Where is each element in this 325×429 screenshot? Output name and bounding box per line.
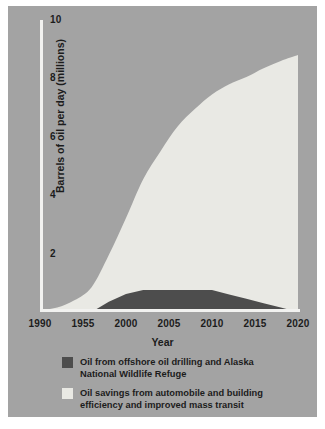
- x-tick-label: 1955: [71, 318, 94, 329]
- x-tick-label: 2015: [243, 318, 266, 329]
- y-axis-title: Barrels of oil per day (millions): [54, 16, 66, 216]
- x-tick-label: 1990: [28, 318, 51, 329]
- x-tick-label: 2020: [286, 318, 309, 329]
- chart-legend: Oil from offshore oil drilling and Alask…: [62, 356, 307, 418]
- legend-swatch-offshore-drilling: [62, 357, 73, 368]
- legend-item-oil-savings: Oil savings from automobile and building…: [62, 387, 307, 411]
- x-tick-label: 2000: [114, 318, 137, 329]
- legend-swatch-oil-savings: [62, 388, 73, 399]
- x-tick-label: 2005: [157, 318, 180, 329]
- plot-area: [40, 20, 298, 312]
- y-tick-label: 2: [50, 248, 56, 259]
- x-axis-title: Year: [8, 336, 317, 348]
- figure-panel: 246810 1990195520002005201020152020 Barr…: [8, 6, 317, 417]
- legend-label-oil-savings: Oil savings from automobile and building…: [80, 387, 263, 411]
- legend-label-line-2: National Wildlife Refuge: [80, 368, 254, 380]
- legend-item-offshore-drilling: Oil from offshore oil drilling and Alask…: [62, 356, 307, 380]
- legend-label-line-2: efficiency and improved mass transit: [80, 399, 263, 411]
- x-axis-line: [40, 309, 300, 312]
- area-oil-savings: [40, 55, 298, 312]
- x-tick-label: 2010: [200, 318, 223, 329]
- legend-label-line-1: Oil savings from automobile and building: [80, 387, 263, 399]
- legend-label-line-1: Oil from offshore oil drilling and Alask…: [80, 356, 254, 368]
- stacked-area-series: [40, 20, 298, 312]
- legend-label-offshore-drilling: Oil from offshore oil drilling and Alask…: [80, 356, 254, 380]
- chart-screenshot: 246810 1990195520002005201020152020 Barr…: [0, 0, 325, 429]
- y-axis-line: [40, 20, 43, 312]
